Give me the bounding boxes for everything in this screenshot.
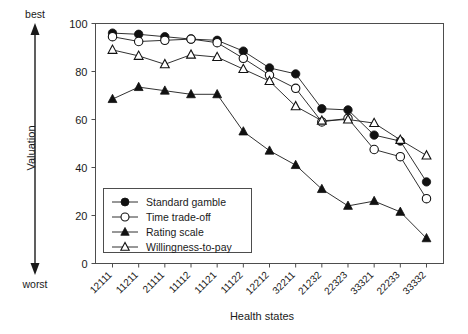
x-tick-label: 22323 [322, 269, 350, 297]
data-point-filled-circle [291, 70, 299, 78]
data-point-open-circle [396, 153, 404, 161]
data-point-open-circle [370, 145, 378, 153]
chart-figure: 020406080100 121111121121111111121112111… [0, 0, 468, 334]
x-axis-labels: 1211111211211111111211121111221221232211… [88, 269, 429, 297]
data-point-open-circle [134, 37, 142, 45]
data-point-filled-circle [121, 198, 129, 206]
data-point-open-triangle [239, 64, 248, 72]
x-axis-ticks [113, 264, 427, 268]
data-point-open-triangle [108, 45, 117, 53]
legend-label: Standard gamble [146, 196, 226, 208]
x-tick-label: 12212 [243, 269, 271, 297]
data-point-open-circle [291, 84, 299, 92]
data-point-open-circle [422, 195, 430, 203]
x-tick-label: 11122 [218, 269, 245, 296]
data-point-open-triangle [422, 151, 431, 159]
data-point-open-circle [108, 33, 116, 41]
data-point-filled-triangle [134, 82, 143, 90]
series-markers-time-trade-off [108, 33, 430, 203]
y-tick-label: 20 [75, 210, 87, 222]
data-point-filled-triangle [108, 94, 117, 102]
best-anchor-label: best [25, 8, 45, 20]
legend-label: Willingness-to-pay [146, 241, 233, 253]
x-tick-label: 12111 [88, 269, 115, 296]
valuation-line-chart: 020406080100 121111121121111111121112111… [0, 0, 468, 334]
y-tick-label: 80 [75, 66, 87, 78]
chart-legend: Standard gambleTime trade-offRating scal… [104, 189, 252, 254]
data-point-filled-triangle [370, 196, 379, 204]
data-point-open-circle [187, 35, 195, 43]
y-axis-title: Valuation [25, 125, 37, 170]
valuation-direction-arrow: best Valuation worst [21, 8, 47, 290]
data-point-filled-circle [422, 178, 430, 186]
series-markers-standard-gamble [108, 29, 430, 186]
series-line [113, 37, 427, 199]
arrow-head-up [31, 23, 40, 35]
x-axis-title: Health states [230, 310, 295, 322]
data-point-open-circle [161, 36, 169, 44]
legend-label: Rating scale [146, 226, 204, 238]
y-tick-label: 100 [69, 18, 87, 30]
x-tick-label: 21232 [296, 269, 324, 297]
series-standard-gamble [113, 33, 427, 182]
arrow-head-down [31, 263, 40, 275]
x-tick-label: 33332 [400, 269, 428, 297]
x-tick-label: 11121 [192, 269, 219, 296]
data-point-filled-circle [370, 131, 378, 139]
x-tick-label: 21111 [140, 269, 166, 295]
data-point-filled-circle [318, 105, 326, 113]
y-axis: 020406080100 [69, 18, 95, 270]
series-time-trade-off [113, 37, 427, 199]
data-point-filled-triangle [239, 127, 248, 135]
data-point-filled-triangle [265, 146, 274, 154]
x-tick-label: 33321 [348, 269, 376, 297]
data-point-filled-triangle [213, 90, 222, 98]
y-tick-label: 40 [75, 162, 87, 174]
data-point-filled-triangle [396, 207, 405, 215]
y-tick-label: 60 [75, 114, 87, 126]
data-point-filled-circle [344, 106, 352, 114]
x-tick-label: 32211 [270, 269, 297, 296]
data-point-open-circle [239, 54, 247, 62]
legend-label: Time trade-off [146, 211, 211, 223]
x-tick-label: 11112 [167, 269, 193, 295]
data-point-open-circle [121, 213, 129, 221]
data-point-filled-triangle [291, 160, 300, 168]
data-point-open-triangle [187, 50, 196, 58]
x-tick-label: 11211 [114, 269, 141, 296]
x-tick-label: 22233 [374, 269, 402, 297]
series-markers-willingness-to-pay [108, 45, 431, 159]
y-tick-label: 0 [81, 258, 87, 270]
data-point-open-circle [213, 39, 221, 47]
worst-anchor-label: worst [21, 278, 47, 290]
series-line [113, 33, 427, 182]
data-point-filled-triangle [317, 184, 326, 192]
